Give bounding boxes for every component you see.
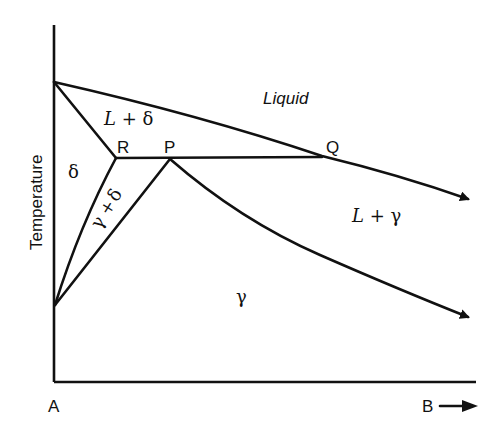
phase-diagram: Temperature A B R P Q Liquid L + δ δ γ +… xyxy=(0,0,502,427)
point-p-label: P xyxy=(164,138,175,157)
component-a-label: A xyxy=(48,397,60,416)
region-l-gamma-label: L + γ xyxy=(351,205,401,226)
plus-symbol: + xyxy=(370,205,391,226)
plus-symbol: + xyxy=(122,108,143,129)
phase-diagram-canvas: Temperature A B R P Q Liquid L + δ δ γ +… xyxy=(0,0,502,427)
point-q-label: Q xyxy=(326,138,339,157)
component-b-label: B xyxy=(422,397,433,416)
b-direction-arrowhead-icon xyxy=(462,400,478,412)
region-delta-label: δ xyxy=(68,161,79,182)
delta-solvus-line xyxy=(55,158,116,305)
l-symbol: L xyxy=(351,205,364,226)
gamma-solidus-line xyxy=(170,159,468,317)
delta-symbol: δ xyxy=(143,108,154,129)
region-l-delta-label: L + δ xyxy=(103,108,153,129)
l-symbol: L xyxy=(103,108,116,129)
region-liquid-label: Liquid xyxy=(263,89,309,108)
point-r-label: R xyxy=(117,138,129,157)
y-axis-label: Temperature xyxy=(27,155,46,250)
peritectic-isotherm xyxy=(116,157,322,158)
gamma-symbol: γ xyxy=(391,205,402,226)
region-gamma-label: γ xyxy=(236,286,247,307)
